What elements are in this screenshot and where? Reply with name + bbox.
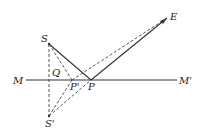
ray-s-prime-p-prime [49, 80, 72, 116]
label-m: M [12, 75, 24, 86]
label-q: Q [52, 67, 60, 78]
reflection-diagram: S E Q M M' P' P S' [0, 0, 199, 139]
label-s-prime: S' [45, 118, 55, 129]
ray-p-prime-e [72, 18, 167, 80]
point-s-prime [48, 115, 50, 117]
label-s: S [41, 33, 48, 44]
point-s [48, 43, 50, 45]
label-e: E [169, 11, 178, 22]
reflected-ray-pe [91, 18, 167, 80]
label-m-prime: M' [178, 75, 192, 86]
label-p-prime: P' [69, 81, 79, 92]
label-p: P [87, 81, 95, 92]
